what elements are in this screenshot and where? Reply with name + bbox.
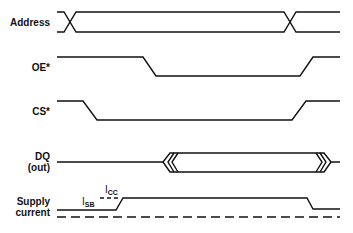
timing-waveforms [0,0,353,233]
cs-waveform [57,101,340,120]
dq-waveform [57,153,340,172]
supply-waveform [57,198,340,217]
address-waveform [57,12,340,32]
oe-waveform [57,57,340,76]
